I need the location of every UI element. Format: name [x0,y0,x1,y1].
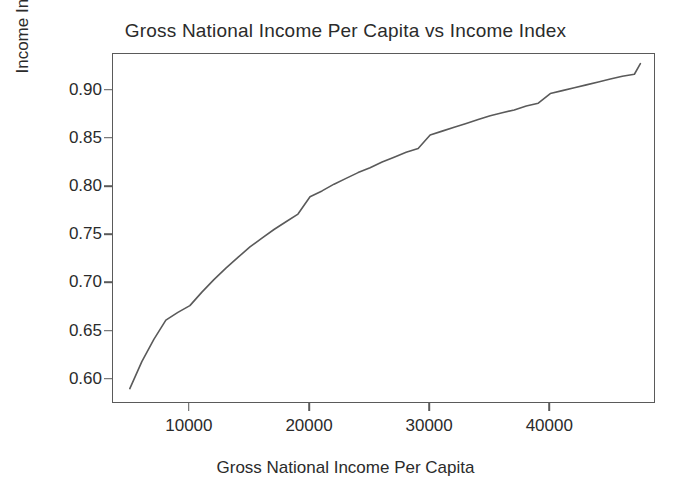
y-tick-mark [104,282,112,284]
y-tick-mark [104,89,112,91]
x-tick-mark [428,403,430,411]
y-tick-label: 0.75 [69,224,102,244]
chart-title: Gross National Income Per Capita vs Inco… [0,20,691,42]
x-tick-mark [308,403,310,411]
x-tick-label: 40000 [526,416,573,436]
chart-figure: Gross National Income Per Capita vs Inco… [0,0,691,501]
y-axis-label: Income Index [8,0,38,273]
x-tick-label: 10000 [165,416,212,436]
x-tick-label: 30000 [406,416,453,436]
y-tick-mark [104,137,112,139]
y-tick-label: 0.70 [69,272,102,292]
y-tick-label: 0.85 [69,128,102,148]
series-income-index-line [130,64,641,389]
y-tick-mark [104,185,112,187]
x-tick-label: 20000 [285,416,332,436]
x-axis-label: Gross National Income Per Capita [0,458,691,478]
y-tick-mark [104,233,112,235]
y-tick-mark [104,378,112,380]
x-tick-mark [188,403,190,411]
y-tick-label: 0.80 [69,176,102,196]
data-line-svg [113,54,656,404]
y-tick-label: 0.60 [69,369,102,389]
y-tick-mark [104,330,112,332]
x-tick-mark [548,403,550,411]
y-tick-label: 0.65 [69,321,102,341]
y-axis-label-wrap: Income Index [0,0,60,501]
y-tick-label: 0.90 [69,80,102,100]
plot-area [112,53,655,403]
